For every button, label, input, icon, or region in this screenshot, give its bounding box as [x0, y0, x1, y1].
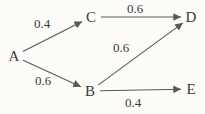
edge-weight-B-D: 0.6 — [113, 40, 130, 55]
node-D: D — [186, 9, 197, 25]
node-A: A — [9, 48, 20, 64]
edge-B-D — [98, 23, 183, 85]
edge-B-E — [100, 89, 181, 91]
node-B: B — [85, 83, 95, 99]
edge-weight-B-E: 0.4 — [125, 95, 142, 110]
edge-A-B — [23, 60, 81, 87]
node-E: E — [186, 81, 195, 97]
edge-weight-A-C: 0.4 — [34, 16, 51, 31]
edge-weight-C-D: 0.6 — [127, 1, 144, 16]
graph-canvas: 0.40.60.60.60.4ACDBE — [0, 0, 205, 114]
edge-weight-A-B: 0.6 — [35, 73, 52, 88]
node-C: C — [86, 9, 96, 25]
graph-diagram: 0.40.60.60.60.4ACDBE — [0, 0, 205, 114]
edge-A-C — [23, 22, 82, 52]
